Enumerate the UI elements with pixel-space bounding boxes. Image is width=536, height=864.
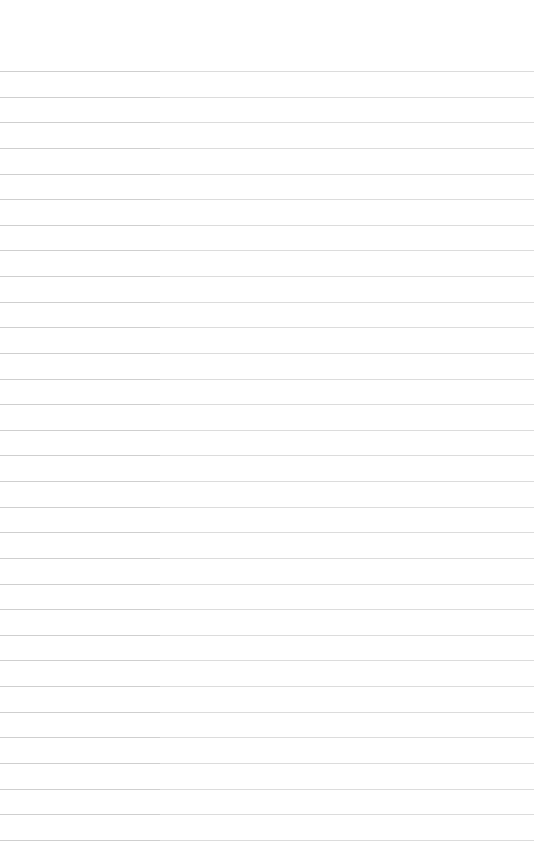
ruled-line: [0, 250, 534, 251]
ruled-line: [0, 481, 534, 482]
ruled-line: [0, 763, 534, 764]
ruled-line: [0, 430, 534, 431]
ruled-line: [0, 635, 534, 636]
ruled-line: [0, 199, 534, 200]
ruled-line: [0, 148, 534, 149]
ruled-line: [0, 584, 534, 585]
ruled-line: [0, 737, 534, 738]
ruled-line: [0, 379, 534, 380]
ruled-line: [0, 276, 534, 277]
ruled-line: [0, 814, 534, 815]
ruled-line: [0, 71, 534, 72]
ruled-page: [0, 0, 536, 864]
ruled-line: [0, 686, 534, 687]
ruled-line: [0, 404, 534, 405]
ruled-line: [0, 558, 534, 559]
ruled-line: [0, 712, 534, 713]
ruled-line: [0, 660, 534, 661]
ruled-line: [0, 97, 534, 98]
ruled-line: [0, 532, 534, 533]
ruled-line: [0, 122, 534, 123]
ruled-line: [0, 789, 534, 790]
ruled-line: [0, 327, 534, 328]
ruled-line: [0, 507, 534, 508]
ruled-line: [0, 225, 534, 226]
ruled-line: [0, 609, 534, 610]
ruled-line: [0, 455, 534, 456]
ruled-line: [0, 353, 534, 354]
ruled-line: [0, 174, 534, 175]
ruled-line: [0, 302, 534, 303]
ruled-line: [0, 840, 534, 841]
